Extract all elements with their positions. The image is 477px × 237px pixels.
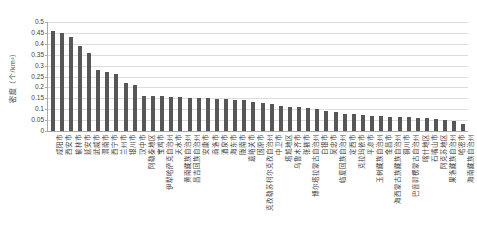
y-tick-label: 0.1 bbox=[18, 105, 44, 113]
x-tick-label: 海西蒙古族藏族自治州 bbox=[394, 134, 402, 204]
bar bbox=[87, 53, 91, 131]
bar bbox=[398, 117, 402, 131]
bar bbox=[51, 31, 55, 131]
x-tick-label: 玉树藏族自治州 bbox=[376, 134, 384, 183]
bar bbox=[461, 124, 465, 131]
x-tick-label: 阿克苏地区 bbox=[440, 134, 448, 169]
bar bbox=[379, 116, 383, 131]
x-tick-label: 天水市 bbox=[175, 134, 183, 155]
gridline bbox=[48, 44, 468, 45]
bar bbox=[60, 33, 64, 131]
x-tick-label: 海东市 bbox=[230, 134, 238, 155]
bar bbox=[352, 114, 356, 131]
x-tick-label: 银川市 bbox=[129, 134, 137, 155]
x-tick-label: 延安市 bbox=[84, 134, 92, 155]
gridline bbox=[48, 87, 468, 88]
bar bbox=[416, 118, 420, 131]
gridline bbox=[48, 66, 468, 67]
bar bbox=[407, 117, 411, 131]
bar bbox=[197, 98, 201, 131]
y-axis-line bbox=[47, 22, 48, 132]
bar bbox=[105, 72, 109, 131]
x-tick-label: 塔城地区 bbox=[285, 134, 293, 162]
x-tick-label: 固原市 bbox=[257, 134, 265, 155]
y-tick-label: 0.2 bbox=[18, 83, 44, 91]
gridline bbox=[48, 22, 468, 23]
x-tick-label: 嘉峪关市 bbox=[248, 134, 256, 162]
x-tick-label: 巴音郭楞蒙古自治州 bbox=[412, 134, 420, 197]
y-tick-label: 0.4 bbox=[18, 40, 44, 48]
bar bbox=[69, 37, 73, 131]
y-tick-label: 0 bbox=[18, 127, 44, 135]
bar bbox=[370, 116, 374, 131]
bar bbox=[297, 107, 301, 131]
bar bbox=[142, 96, 146, 131]
bar bbox=[206, 98, 210, 131]
bar bbox=[178, 97, 182, 131]
bar-chart: 密度（个/km²） 00.050.10.150.20.250.30.350.40… bbox=[0, 0, 477, 237]
x-tick-label: 兰州市 bbox=[120, 134, 128, 155]
x-tick-label: 西宁市 bbox=[111, 134, 119, 155]
x-tick-label: 临夏回族自治州 bbox=[339, 134, 347, 183]
x-tick-label: 伊犁哈萨克自治州 bbox=[166, 134, 174, 190]
bar bbox=[425, 118, 429, 131]
x-tick-label: 酒泉市 bbox=[221, 134, 229, 155]
bar bbox=[78, 46, 82, 131]
bar bbox=[343, 114, 347, 131]
bar bbox=[114, 74, 118, 131]
x-tick-label: 黄南藏族自治州 bbox=[184, 134, 192, 183]
bar bbox=[151, 96, 155, 131]
bar bbox=[361, 115, 365, 131]
x-tick-label: 克孜勒苏柯尔克孜自治州 bbox=[266, 134, 274, 211]
y-tick-label: 0.45 bbox=[18, 29, 44, 37]
bar bbox=[306, 108, 310, 131]
bar bbox=[242, 100, 246, 131]
x-tick-label: 阿勒泰地区 bbox=[148, 134, 156, 169]
x-tick-label: 乌鲁木齐市 bbox=[294, 134, 302, 169]
gridline bbox=[48, 55, 468, 56]
x-tick-label: 渭南市 bbox=[102, 134, 110, 155]
x-tick-label: 海南藏族自治州 bbox=[467, 134, 475, 183]
bar bbox=[188, 98, 192, 131]
gridline bbox=[48, 120, 468, 121]
bar bbox=[443, 120, 447, 131]
bar bbox=[160, 96, 164, 131]
x-tick-label: 白银市 bbox=[321, 134, 329, 155]
bar bbox=[251, 102, 255, 131]
x-axis-line bbox=[47, 131, 468, 132]
gridline bbox=[48, 98, 468, 99]
x-tick-label: 商洛市 bbox=[212, 134, 220, 155]
x-tick-label: 喀什地区 bbox=[422, 134, 430, 162]
x-tick-label: 昌吉回族自治州 bbox=[193, 134, 201, 183]
gridline bbox=[48, 109, 468, 110]
y-tick-label: 0.15 bbox=[18, 94, 44, 102]
x-tick-label: 中卫市 bbox=[275, 134, 283, 155]
x-tick-label: 博尔塔拉蒙古自治州 bbox=[312, 134, 320, 197]
bar bbox=[279, 106, 283, 131]
gridline bbox=[48, 77, 468, 78]
bar bbox=[215, 99, 219, 131]
bar bbox=[233, 100, 237, 131]
x-tick-label: 安康市 bbox=[202, 134, 210, 155]
bar bbox=[334, 112, 338, 131]
x-tick-label: 平凉市 bbox=[367, 134, 375, 155]
bar bbox=[224, 99, 228, 131]
x-tick-label: 榆林市 bbox=[75, 134, 83, 155]
y-tick-label: 0.3 bbox=[18, 62, 44, 70]
x-tick-label: 金昌市 bbox=[385, 134, 393, 155]
bar bbox=[124, 83, 128, 131]
y-tick-label: 0.5 bbox=[18, 18, 44, 26]
bar bbox=[133, 85, 137, 131]
x-tick-label: 宝鸡市 bbox=[157, 134, 165, 155]
x-tick-label: 西安市 bbox=[65, 134, 73, 155]
x-tick-label: 咸阳市 bbox=[56, 134, 64, 155]
x-tick-label: 克拉玛依市 bbox=[358, 134, 366, 169]
x-tick-label: 哈密市 bbox=[458, 134, 466, 155]
x-tick-label: 吴忠市 bbox=[330, 134, 338, 155]
bar bbox=[434, 119, 438, 131]
bar bbox=[315, 109, 319, 131]
bar bbox=[169, 97, 173, 131]
bar bbox=[261, 103, 265, 131]
bar bbox=[324, 111, 328, 131]
x-tick-label: 张掖市 bbox=[303, 134, 311, 155]
